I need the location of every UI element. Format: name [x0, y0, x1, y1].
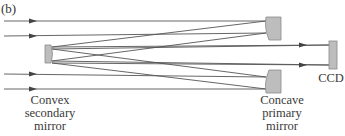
reflected-rays-primary-to-secondary [52, 21, 266, 89]
ccd-detector [329, 41, 337, 69]
ccd-label: CCD [316, 72, 345, 85]
arrow-icon [29, 34, 37, 39]
primary-mirror-label: Concave primary mirror [248, 94, 316, 133]
incoming-rays [4, 21, 266, 89]
arrow-icon [29, 87, 37, 92]
incoming-ray-2 [4, 33, 266, 36]
convex-secondary-mirror [45, 45, 53, 63]
concave-primary-mirror-lower [265, 70, 281, 93]
arrow-icon [29, 19, 37, 24]
arrow-icon [299, 43, 307, 48]
ccd-arrows [299, 43, 307, 68]
secondary-mirror-label: Convex secondary mirror [14, 94, 86, 133]
reflected-rays-secondary-to-ccd [52, 45, 329, 65]
arrow-icon [29, 72, 37, 77]
arrow-icon [299, 63, 307, 68]
incoming-ray-3 [4, 74, 266, 77]
concave-primary-mirror-upper [265, 17, 281, 40]
incoming-arrows [29, 19, 37, 92]
